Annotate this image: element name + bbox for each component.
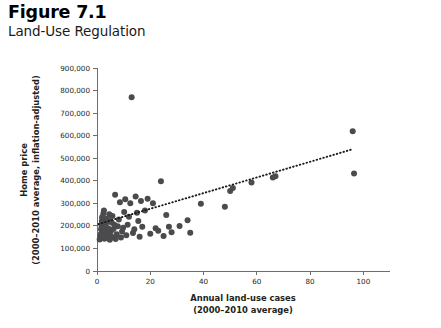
plot-svg: 0100,000200,000300,000400,000500,000600,… xyxy=(0,58,441,328)
x-axis-title-line1: Annual land-use cases xyxy=(190,293,296,303)
scatter-point xyxy=(169,229,175,235)
scatter-point xyxy=(177,223,183,229)
scatter-point xyxy=(166,224,172,230)
scatter-point xyxy=(137,234,143,240)
x-tick-label: 40 xyxy=(199,277,209,286)
scatter-point xyxy=(198,201,204,207)
scatter-point xyxy=(272,173,278,179)
scatter-point xyxy=(101,208,107,214)
scatter-point xyxy=(155,228,161,234)
y-tick-label: 600,000 xyxy=(60,131,90,140)
scatter-point xyxy=(135,218,141,224)
scatter-point xyxy=(121,209,127,215)
scatter-point xyxy=(125,222,131,228)
figure-title: Land-Use Regulation xyxy=(8,23,428,40)
scatter-point xyxy=(161,233,167,239)
scatter-point xyxy=(109,213,115,219)
scatter-point xyxy=(117,199,123,205)
scatter-point xyxy=(123,232,129,238)
y-tick-label: 100,000 xyxy=(60,244,90,253)
trendline xyxy=(98,149,352,224)
scatter-point xyxy=(133,194,139,200)
scatter-point xyxy=(145,196,151,202)
scatter-point xyxy=(112,192,118,198)
scatter-point xyxy=(127,200,133,206)
scatter-point xyxy=(129,94,135,100)
x-axis-title-line2: (2000–2010 average) xyxy=(193,305,293,315)
scatter-point xyxy=(115,223,121,229)
scatter-point xyxy=(185,217,191,223)
scatter-point xyxy=(138,198,144,204)
figure-number: Figure 7.1 xyxy=(8,2,428,22)
scatter-point xyxy=(187,230,193,236)
scatter-point xyxy=(118,235,124,241)
y-tick-label: 900,000 xyxy=(60,64,90,73)
scatter-point xyxy=(158,178,164,184)
scatter-point xyxy=(147,231,153,237)
y-tick-label: 0 xyxy=(85,267,90,276)
scatter-point xyxy=(351,171,357,177)
figure-heading: Figure 7.1 Land-Use Regulation xyxy=(8,2,428,40)
x-axis-ticks: 020406080100 xyxy=(95,271,371,286)
data-points xyxy=(97,94,357,243)
scatter-point xyxy=(131,226,137,232)
y-tick-label: 400,000 xyxy=(60,176,90,185)
scatter-point xyxy=(222,204,228,210)
x-tick-label: 80 xyxy=(306,277,316,286)
x-tick-label: 20 xyxy=(146,277,156,286)
scatter-point xyxy=(139,224,145,230)
y-tick-label: 500,000 xyxy=(60,154,90,163)
y-tick-label: 800,000 xyxy=(60,86,90,95)
x-tick-label: 0 xyxy=(95,277,100,286)
scatter-point xyxy=(150,200,156,206)
scatter-plot: 0100,000200,000300,000400,000500,000600,… xyxy=(0,58,441,328)
y-axis-title-line1: Home price xyxy=(19,143,29,197)
scatter-point xyxy=(230,185,236,191)
y-tick-label: 200,000 xyxy=(60,221,90,230)
x-tick-label: 60 xyxy=(252,277,262,286)
y-axis-title-line2: (2000–2010 average, inflation-adjusted) xyxy=(31,75,41,265)
x-tick-label: 100 xyxy=(357,277,371,286)
y-tick-label: 300,000 xyxy=(60,199,90,208)
scatter-point xyxy=(350,128,356,134)
y-axis-ticks: 0100,000200,000300,000400,000500,000600,… xyxy=(60,64,97,276)
scatter-point xyxy=(122,196,128,202)
y-tick-label: 700,000 xyxy=(60,109,90,118)
figure-root: Figure 7.1 Land-Use Regulation 0100,0002… xyxy=(0,0,441,328)
scatter-point xyxy=(163,212,169,218)
